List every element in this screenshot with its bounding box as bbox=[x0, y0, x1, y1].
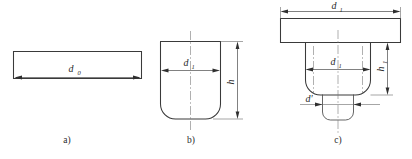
c-d1-top-right-arrowhead bbox=[393, 10, 401, 14]
d0-label-subscript: 0 bbox=[78, 69, 82, 76]
c-h1-label-subscript: 1 bbox=[381, 61, 388, 64]
b-d1-right-arrowhead bbox=[213, 69, 221, 73]
b-d1-left-arrowhead bbox=[161, 69, 169, 73]
c-h1-bottom-arrowhead bbox=[386, 88, 390, 96]
c-dprime-label: d′ bbox=[305, 93, 313, 104]
c-d1-top-label-subscript: 1 bbox=[340, 6, 343, 13]
b-d1-label-subscript: 1 bbox=[192, 63, 195, 70]
panel-a: d 0 a) bbox=[14, 52, 142, 147]
c-h1-top-arrowhead bbox=[386, 43, 390, 51]
flange-outline bbox=[281, 19, 401, 43]
c-dprime-right-arrowhead bbox=[354, 103, 362, 107]
caption-c: c) bbox=[334, 135, 341, 146]
caption-b: b) bbox=[187, 135, 195, 146]
b-h-label: h bbox=[225, 80, 236, 85]
c-d1-mid-left-arrowhead bbox=[306, 68, 314, 72]
c-d1-top-left-arrowhead bbox=[281, 10, 289, 14]
drawing-canvas: d 0 a) d 1 h b) bbox=[0, 0, 412, 159]
panel-b: d 1 h b) bbox=[161, 31, 244, 146]
c-d1-mid-label: d bbox=[331, 56, 337, 67]
c-d1-mid-label-subscript: 1 bbox=[339, 62, 342, 69]
c-dprime-left-arrowhead bbox=[315, 103, 323, 107]
b-h-bottom-arrowhead bbox=[236, 112, 240, 120]
b-h-top-arrowhead bbox=[236, 42, 240, 50]
d0-label: d bbox=[69, 63, 75, 74]
c-h1-label: h bbox=[375, 67, 386, 72]
c-d1-top-label: d bbox=[332, 0, 338, 11]
panel-c: d 1 d 1 d′ h 1 c) bbox=[281, 0, 401, 146]
caption-a: a) bbox=[63, 135, 70, 146]
b-d1-label: d bbox=[184, 57, 190, 68]
technical-drawing-figure: d 0 a) d 1 h b) bbox=[0, 0, 412, 159]
c-d1-mid-right-arrowhead bbox=[363, 68, 371, 72]
